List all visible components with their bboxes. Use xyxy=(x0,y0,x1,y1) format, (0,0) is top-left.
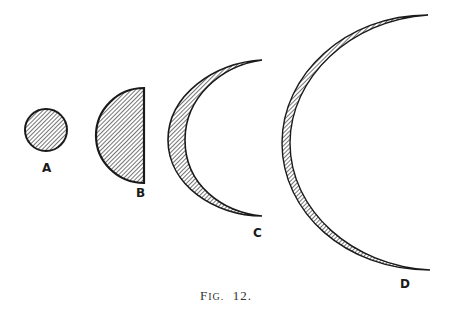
figure-12-diagram: A B C D xyxy=(0,0,452,319)
shape-b-half-disk xyxy=(96,88,144,183)
caption-smallcaps: IG. xyxy=(208,291,224,302)
caption-prefix: F xyxy=(200,288,208,303)
shape-d-thin-crescent xyxy=(282,15,430,270)
label-b: B xyxy=(136,186,145,200)
shape-c-crescent xyxy=(168,60,262,216)
figure-caption: FIG. 12. xyxy=(0,288,452,304)
label-a: A xyxy=(42,161,52,175)
label-c: C xyxy=(253,226,262,240)
shape-a-full-disk xyxy=(25,109,67,151)
caption-number: 12. xyxy=(233,288,252,303)
